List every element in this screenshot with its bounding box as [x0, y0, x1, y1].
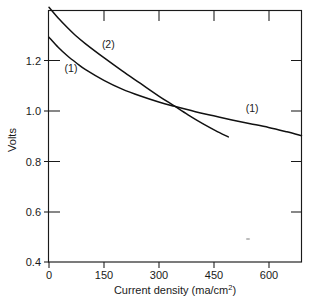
y-axis-title: Volts: [6, 128, 18, 152]
x-axis-ticks-top: [104, 11, 269, 21]
y-axis-ticks-left-inward: [49, 61, 60, 213]
x-tick-label-600: 600: [260, 269, 278, 281]
x-tick-label-450: 450: [205, 269, 223, 281]
curve-annotation-1-right: (1): [246, 102, 259, 114]
y-tick-label-0-8: 0.8: [26, 156, 41, 168]
y-tick-label-1-2: 1.2: [26, 55, 41, 67]
y-tick-label-1-0: 1.0: [26, 105, 41, 117]
curve-annotation-2: (2): [102, 38, 115, 50]
figure-container: 0 150 300 450 600 1.2 1.0 0.8 0.6 0.4 Vo…: [0, 0, 313, 298]
x-axis-title-tail: ): [232, 284, 236, 296]
y-axis-ticks-right: [291, 61, 301, 213]
x-tick-label-150: 150: [95, 269, 113, 281]
y-tick-label-0-4: 0.4: [26, 256, 41, 268]
x-axis-title-main: Current density (ma/cm: [114, 284, 228, 296]
plot-frame: [49, 11, 302, 263]
x-axis-ticks-bottom: [49, 262, 269, 268]
curve-annotation-1-left: (1): [65, 62, 78, 74]
x-tick-label-0: 0: [46, 269, 52, 281]
scan-artifact-speck: [246, 238, 250, 240]
x-tick-label-300: 300: [150, 269, 168, 281]
line-chart: 0 150 300 450 600 1.2 1.0 0.8 0.6 0.4 Vo…: [0, 0, 313, 298]
y-tick-label-0-6: 0.6: [26, 206, 41, 218]
x-axis-title: Current density (ma/cm2): [114, 283, 236, 296]
data-curve-1: [49, 37, 302, 135]
